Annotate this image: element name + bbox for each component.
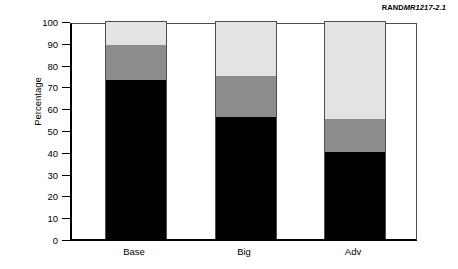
y-axis-tick	[62, 175, 70, 176]
bar-segment-top-segment	[215, 21, 277, 76]
bar-segment-bottom-segment	[215, 117, 277, 239]
y-axis-tick	[62, 131, 70, 132]
y-axis-tick	[62, 218, 70, 219]
bar-segment-top-segment	[105, 21, 167, 45]
y-axis-tick	[62, 66, 70, 67]
y-axis-tick-label: 60	[24, 105, 58, 115]
y-axis-tick-label: 80	[24, 62, 58, 72]
bar-segment-top-segment	[324, 21, 386, 119]
x-axis-label-adv: Adv	[308, 246, 398, 257]
plot-area	[70, 23, 417, 241]
y-axis-tick	[62, 22, 70, 23]
chart-figure: RANDMR1217-2.1 Percentage 10090807060504…	[0, 0, 458, 269]
y-axis-tick-label: 70	[24, 83, 58, 93]
bar-segment-middle-segment	[215, 76, 277, 117]
x-axis-label-big: Big	[199, 246, 289, 257]
y-axis-tick-label: 40	[24, 149, 58, 159]
x-axis-label-base: Base	[89, 246, 179, 257]
y-axis-tick	[62, 240, 70, 241]
y-axis-tick	[62, 153, 70, 154]
y-axis-tick-label: 90	[24, 40, 58, 50]
rand-report-credit: RANDMR1217-2.1	[382, 3, 446, 12]
y-axis-tick	[62, 44, 70, 45]
y-axis-tick	[62, 87, 70, 88]
stacked-bar-big	[215, 21, 277, 239]
y-axis-tick-label: 30	[24, 171, 58, 181]
bar-segment-middle-segment	[105, 45, 167, 80]
rand-brand-text: RAND	[382, 3, 404, 12]
stacked-bar-adv	[324, 21, 386, 239]
y-axis-tick	[62, 109, 70, 110]
y-axis-tick-label: 20	[24, 192, 58, 202]
y-axis-tick-label: 100	[24, 18, 58, 28]
stacked-bar-base	[105, 21, 167, 239]
y-axis-tick	[62, 196, 70, 197]
rand-report-code: MR1217-2.1	[404, 3, 446, 12]
bar-segment-bottom-segment	[324, 152, 386, 239]
y-axis-tick-label: 50	[24, 127, 58, 137]
y-axis-tick-label: 0	[24, 236, 58, 246]
y-axis-tick-label: 10	[24, 214, 58, 224]
bar-segment-bottom-segment	[105, 80, 167, 239]
bar-segment-middle-segment	[324, 119, 386, 152]
